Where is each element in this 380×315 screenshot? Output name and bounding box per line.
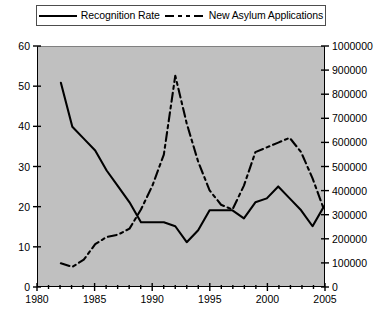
legend-label-new-asylum-applications: New Asylum Applications bbox=[209, 10, 323, 21]
y-left-tick-60: 60 bbox=[18, 41, 30, 52]
y-right-tick-900000: 900000 bbox=[332, 65, 367, 76]
y-right-tick-1000000: 1000000 bbox=[332, 41, 373, 52]
y-right-tick-300000: 300000 bbox=[332, 209, 367, 220]
y-left-tick-10: 10 bbox=[18, 242, 30, 253]
plot-lines bbox=[38, 47, 324, 286]
y-right-tick-200000: 200000 bbox=[332, 234, 367, 245]
y-right-tick-700000: 700000 bbox=[332, 113, 367, 124]
x-tick-1985: 1985 bbox=[83, 294, 106, 305]
y-right-tick-800000: 800000 bbox=[332, 89, 367, 100]
y-right-tick-500000: 500000 bbox=[332, 161, 367, 172]
x-tick-1990: 1990 bbox=[141, 294, 164, 305]
series-line-new-asylum-applications bbox=[61, 76, 324, 267]
legend-entry-new-asylum-applications: New Asylum Applications bbox=[165, 10, 323, 21]
y-left-tick-30: 30 bbox=[18, 161, 30, 172]
x-tick-1995: 1995 bbox=[198, 294, 221, 305]
legend-swatch-solid-line-icon bbox=[39, 14, 77, 17]
legend-entry-recognition-rate: Recognition Rate bbox=[39, 10, 160, 21]
plot-area bbox=[37, 46, 325, 287]
y-right-tick-0: 0 bbox=[332, 282, 338, 293]
asylum-recognition-chart: Recognition Rate New Asylum Applications… bbox=[0, 0, 380, 315]
y-left-tick-40: 40 bbox=[18, 121, 30, 132]
y-right-tick-400000: 400000 bbox=[332, 185, 367, 196]
series-line-recognition-rate bbox=[61, 83, 324, 242]
legend-swatch-dash-dot-line-icon bbox=[165, 14, 205, 17]
x-tick-2000: 2000 bbox=[256, 294, 279, 305]
legend-label-recognition-rate: Recognition Rate bbox=[81, 10, 160, 21]
x-tick-2005: 2005 bbox=[313, 294, 336, 305]
y-right-tick-600000: 600000 bbox=[332, 137, 367, 148]
y-left-tick-50: 50 bbox=[18, 81, 30, 92]
y-left-tick-20: 20 bbox=[18, 201, 30, 212]
x-tick-1980: 1980 bbox=[25, 294, 48, 305]
chart-legend: Recognition Rate New Asylum Applications bbox=[36, 5, 326, 26]
y-right-tick-100000: 100000 bbox=[332, 258, 367, 269]
y-left-tick-0: 0 bbox=[24, 282, 30, 293]
